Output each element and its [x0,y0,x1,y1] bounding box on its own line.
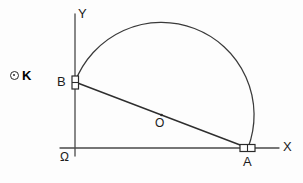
semicircle-arc [75,22,254,148]
circled-dot-icon [10,71,19,80]
point-label-b: B [57,75,66,88]
point-label-a: A [243,155,252,168]
y-axis-label: Y [78,7,87,20]
geometry-figure: Y X Ω B A O K [0,0,303,183]
key-label: K [22,68,32,83]
origin-label: Ω [60,151,69,163]
x-axis-label: X [283,140,292,153]
point-label-o: O [155,117,164,129]
figure-canvas [0,0,303,183]
key-legend: K [10,68,32,83]
